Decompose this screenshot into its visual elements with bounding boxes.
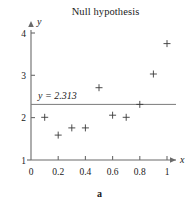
- x-axis-arrow-icon: [170, 157, 176, 163]
- y-tick-label-3: 3: [21, 71, 26, 81]
- figure-scatter-null-hypothesis: Null hypothesis: [0, 0, 193, 211]
- x-tick-label-0-8: 0.8: [134, 167, 146, 177]
- x-tick-label-0: 0: [29, 167, 34, 177]
- figure-caption: a: [0, 188, 193, 199]
- x-axis-label: x: [179, 154, 185, 165]
- y-tick-label-2: 2: [21, 113, 26, 123]
- x-tick-label-0-6: 0.6: [107, 167, 119, 177]
- y-axis-arrow-icon: [28, 21, 34, 27]
- x-tick-label-0-2: 0.2: [52, 167, 64, 177]
- scatter-plot-canvas: y x 4 3 2 1 0 0.2 0.4 0.6 0.8 1 y = 2.31…: [0, 0, 193, 211]
- reference-line-label: y = 2.313: [37, 90, 77, 101]
- y-tick-label-4: 4: [21, 29, 26, 39]
- y-tick-label-1: 1: [21, 156, 26, 166]
- x-tick-label-1: 1: [165, 167, 170, 177]
- y-axis-label: y: [36, 16, 42, 27]
- x-tick-label-0-4: 0.4: [79, 167, 91, 177]
